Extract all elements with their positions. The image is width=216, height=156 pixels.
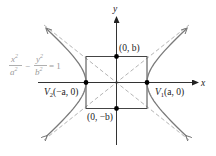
hyperbola-diagram: x y (0, b) (0, −b) V1(a, 0) V2(−a, 0) x2… <box>0 0 216 156</box>
vertex-1-point <box>145 80 150 85</box>
eq-b-denominator: b2 <box>35 66 43 77</box>
y-axis-label: y <box>112 4 118 14</box>
eq-x-numerator: x2 <box>10 53 18 64</box>
x-axis-label: x <box>200 78 206 88</box>
eq-a-denominator: a2 <box>10 66 18 77</box>
eq-y-numerator: y2 <box>35 53 43 64</box>
co-vertex-top-label: (0, b) <box>119 43 140 54</box>
vertex-2-point <box>84 80 89 85</box>
eq-minus: − <box>25 61 30 71</box>
eq-equals-one: = 1 <box>49 61 61 71</box>
co-vertex-bottom-point <box>114 106 119 111</box>
vertex-2-label: V2(−a, 0) <box>44 87 78 98</box>
hyperbola-equation: x2 a2 − y2 b2 = 1 <box>9 53 61 77</box>
vertex-1-label: V1(a, 0) <box>155 87 184 98</box>
co-vertex-bottom-label: (0, −b) <box>87 112 113 123</box>
co-vertex-top-point <box>114 54 119 59</box>
